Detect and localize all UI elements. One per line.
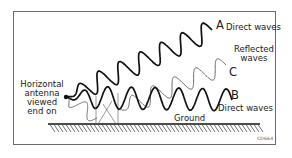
wave-b-label: Direct waves (218, 104, 273, 113)
direct-wave-a-path (66, 23, 212, 97)
wave-b-letter: B (231, 89, 239, 101)
downward-wave-path (68, 98, 97, 121)
ground-hatching (48, 124, 263, 132)
wave-c-letter: C (229, 66, 237, 78)
reflected-label-line-2: waves (234, 54, 274, 63)
reflection-rays (96, 93, 118, 124)
ground-label: Ground (174, 114, 205, 123)
figure-code: CD664 (257, 136, 273, 141)
wave-a-label: Direct waves (226, 23, 281, 32)
antenna-label-line-4: end on (16, 107, 68, 116)
antenna-label: Horizontal antenna viewed end on (16, 80, 68, 116)
wave-a-letter: A (216, 19, 224, 31)
reflected-label: Reflected waves (234, 45, 274, 63)
